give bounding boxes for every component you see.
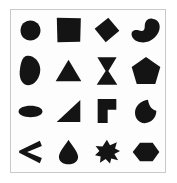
grid-cell-r3c3[interactable] [88, 91, 127, 132]
spiky-star-shape [94, 139, 121, 164]
bean-shape [131, 18, 161, 43]
grid-cell-r1c2[interactable] [50, 10, 89, 51]
grid-cell-r4c2[interactable] [50, 132, 89, 173]
triangle-shape [55, 59, 82, 82]
ellipse-shape [18, 105, 43, 118]
grid-cell-r3c1[interactable] [11, 91, 50, 132]
diamond-shape [94, 17, 120, 43]
chevron-left-shape [18, 140, 43, 164]
right-triangle-shape [56, 99, 81, 123]
grid-cell-r2c3[interactable] [88, 51, 127, 92]
grid-cell-r4c4[interactable] [127, 132, 166, 173]
leaf-blob-shape [19, 55, 41, 86]
circle-shape [20, 20, 41, 41]
grid-cell-r2c1[interactable] [11, 51, 50, 92]
shape-gallery-page [0, 0, 177, 183]
crescent-shape [135, 99, 157, 124]
square-shape [55, 17, 82, 43]
grid-cell-r1c4[interactable] [127, 10, 166, 51]
grid-cell-r4c1[interactable] [11, 132, 50, 173]
shape-card [10, 9, 166, 173]
pentagon-shape [131, 56, 161, 85]
grid-cell-r1c3[interactable] [88, 10, 127, 51]
hourglass-shape [96, 56, 118, 86]
grid-cell-r4c3[interactable] [88, 132, 127, 173]
grid-cell-r2c2[interactable] [50, 51, 89, 92]
teardrop-shape [58, 139, 79, 165]
grid-cell-r2c4[interactable] [127, 51, 166, 92]
hexagon-shape [132, 142, 160, 162]
grid-cell-r3c4[interactable] [127, 91, 166, 132]
shape-grid [11, 10, 165, 172]
grid-cell-r3c2[interactable] [50, 91, 89, 132]
l-bracket-shape [97, 98, 117, 124]
grid-cell-r1c1[interactable] [11, 10, 50, 51]
